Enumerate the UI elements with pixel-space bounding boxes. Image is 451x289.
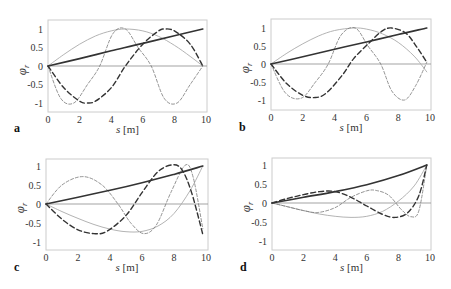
y-axis-label: φr	[237, 62, 254, 73]
x-tick-label: 6	[140, 114, 145, 125]
x-tick-label: 4	[109, 114, 114, 125]
x-axis-label: s [m]	[340, 121, 363, 133]
panel-label: c	[14, 260, 20, 274]
y-axis-label: φr	[14, 64, 31, 75]
y-tick-label: -1	[259, 236, 267, 247]
y-tick-label: 0.5	[254, 41, 267, 52]
chart-panel-c: 10.50-0.5-10246810s [m]φrc	[12, 159, 211, 274]
x-axis-label: s [m]	[340, 261, 363, 273]
x-tick-label: 8	[396, 252, 401, 263]
x-tick-label: 0	[46, 114, 51, 125]
panel-label: a	[14, 121, 20, 135]
y-tick-label: -0.5	[250, 77, 266, 88]
y-tick-label: 1	[38, 24, 43, 35]
x-tick-label: 6	[364, 252, 369, 263]
chart-panel-d: 10.50-0.5-10246810s [m]φrd	[238, 158, 435, 274]
x-tick-label: 10	[425, 112, 435, 123]
chart-panel-b: 10.50-0.5-10246810s [m]φrb	[237, 19, 435, 134]
y-tick-label: 0.5	[255, 179, 268, 190]
y-tick-label: 0	[36, 199, 41, 210]
panel-label: b	[239, 120, 246, 134]
x-tick-label: 8	[172, 252, 177, 263]
x-tick-label: 4	[333, 252, 338, 263]
x-tick-label: 10	[201, 252, 211, 263]
x-tick-label: 10	[425, 252, 435, 263]
x-tick-label: 6	[140, 252, 145, 263]
y-tick-label: -0.5	[251, 217, 267, 228]
chart-panel-a: 10.50-0.5-10246810s [m]φra	[14, 20, 211, 135]
series-line-mode-4	[272, 165, 427, 217]
panel-label: d	[240, 260, 247, 274]
y-tick-label: 1	[262, 160, 267, 171]
y-tick-label: 0	[261, 59, 266, 70]
y-tick-label: 1	[36, 161, 41, 172]
x-tick-label: 10	[201, 114, 211, 125]
figure-canvas: 10.50-0.5-10246810s [m]φra10.50-0.5-1024…	[0, 0, 451, 289]
y-tick-label: -0.5	[25, 218, 41, 229]
x-tick-label: 8	[396, 112, 401, 123]
x-tick-label: 6	[364, 112, 369, 123]
y-tick-label: -1	[35, 98, 43, 109]
y-tick-label: 0	[262, 198, 267, 209]
y-axis-label: φr	[238, 201, 255, 212]
x-tick-label: 2	[76, 252, 81, 263]
x-tick-label: 0	[269, 112, 274, 123]
x-tick-label: 4	[108, 252, 113, 263]
series-line-mode-1	[48, 29, 203, 66]
x-tick-label: 0	[270, 252, 275, 263]
y-tick-label: 0	[38, 61, 43, 72]
x-tick-label: 8	[172, 114, 177, 125]
y-tick-label: -0.5	[27, 79, 43, 90]
y-tick-label: 0.5	[31, 42, 44, 53]
x-axis-label: s [m]	[116, 123, 139, 135]
y-tick-label: 0.5	[29, 180, 42, 191]
series-line-mode-1	[46, 166, 203, 204]
x-tick-label: 0	[44, 252, 49, 263]
y-tick-label: -1	[258, 95, 266, 106]
y-tick-label: -1	[33, 237, 41, 248]
x-tick-label: 2	[300, 112, 305, 123]
x-tick-label: 2	[77, 114, 82, 125]
x-axis-label: s [m]	[116, 261, 139, 273]
series-line-mode-3	[272, 165, 427, 217]
y-tick-label: 1	[261, 23, 266, 34]
x-tick-label: 4	[332, 112, 337, 123]
series-line-mode-2	[272, 165, 427, 217]
series-line-mode-3	[271, 28, 427, 98]
x-tick-label: 2	[301, 252, 306, 263]
y-axis-label: φr	[12, 202, 29, 213]
